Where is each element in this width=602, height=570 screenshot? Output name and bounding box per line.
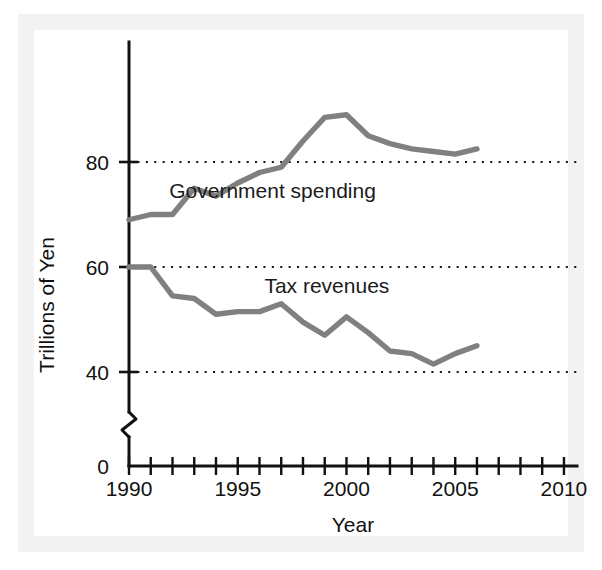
x-tick-label: 1995 xyxy=(214,477,261,500)
series-labels-group: Government spendingTax revenues xyxy=(169,179,389,298)
x-tick-label: 1990 xyxy=(106,477,153,500)
x-tick-label: 2005 xyxy=(432,477,479,500)
series-label-government-spending: Government spending xyxy=(169,179,376,202)
y-tick-label: 0 xyxy=(97,455,109,478)
y-tick-label: 40 xyxy=(86,361,109,384)
line-chart-plot: 8060400 19901995200020052010 Government … xyxy=(0,0,602,570)
chart-figure: 8060400 19901995200020052010 Government … xyxy=(0,0,602,570)
y-axis-break-symbol xyxy=(122,412,136,437)
data-series-group xyxy=(129,115,477,364)
x-tick-label: 2010 xyxy=(541,477,588,500)
x-axis-title: Year xyxy=(332,513,374,536)
y-tick-label: 80 xyxy=(86,151,109,174)
series-line-government-spending xyxy=(129,115,477,220)
x-tick-label: 2000 xyxy=(323,477,370,500)
y-tick-labels-group: 8060400 xyxy=(86,151,109,478)
x-tick-marks-group xyxy=(129,457,564,475)
x-tick-labels-group: 19901995200020052010 xyxy=(106,477,588,500)
y-axis-title: Trillions of Yen xyxy=(35,237,58,373)
series-label-tax-revenues: Tax revenues xyxy=(264,274,389,297)
y-tick-label: 60 xyxy=(86,256,109,279)
